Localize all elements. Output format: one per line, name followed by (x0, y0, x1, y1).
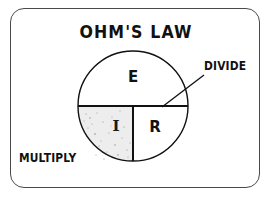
segment-letter-resistance: R (149, 118, 161, 136)
segment-letter-voltage: E (128, 68, 138, 86)
divide-leader-line (162, 75, 204, 107)
label-multiply: MULTIPLY (19, 150, 77, 165)
label-divide: DIVIDE (204, 58, 246, 73)
ohms-law-diagram: OHM'S LAW (0, 0, 272, 198)
segment-letter-current: I (112, 117, 119, 135)
ohms-law-wheel: E I R (0, 0, 272, 198)
